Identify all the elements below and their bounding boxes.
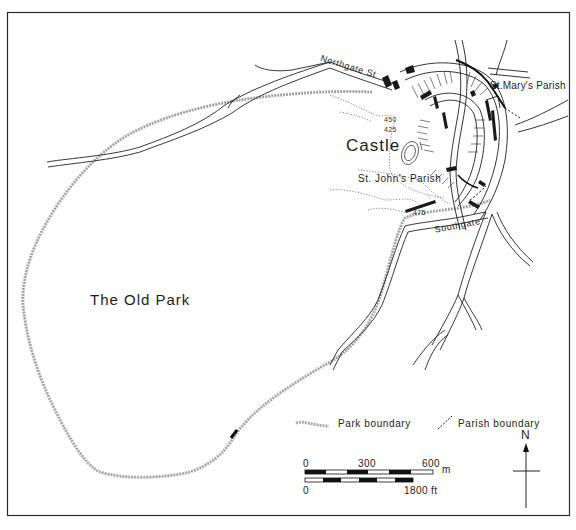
park-boundary-line <box>23 91 490 477</box>
scale-bar-imperial <box>305 478 413 482</box>
legend-park-boundary-symbol <box>296 422 329 426</box>
st-johns-parish-label: St. John's Parish <box>358 174 441 184</box>
northgate-road <box>47 62 395 167</box>
scale-bar-metric <box>305 470 433 474</box>
southern-roads <box>330 212 533 370</box>
old-park-label: The Old Park <box>90 292 190 307</box>
castle-label: Castle <box>346 137 400 154</box>
north-arrow-label: N <box>521 429 530 441</box>
castle-motte <box>398 139 422 167</box>
map-frame <box>8 13 570 516</box>
contour-label-425: 425 <box>384 126 397 133</box>
scale-metric-tick-600: 600 <box>422 459 440 469</box>
scale-metric-unit: m <box>442 465 451 475</box>
scale-imperial-end-label: 1800 ft <box>404 486 437 496</box>
legend-parish-boundary-symbol <box>438 416 452 429</box>
st-marys-parish-label: St.Mary's Parish <box>490 81 566 91</box>
legend-park-boundary-label: Park boundary <box>338 419 411 429</box>
north-arrow-icon <box>513 443 540 508</box>
scale-metric-tick-0: 0 <box>303 459 309 469</box>
contour-label-450: 450 <box>384 116 397 123</box>
scale-metric-tick-300: 300 <box>358 459 376 469</box>
scale-imperial-tick-0: 0 <box>303 486 309 496</box>
contour-label-475: 475 <box>413 209 426 216</box>
